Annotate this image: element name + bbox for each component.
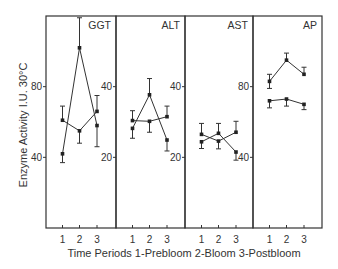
x-tick-label: 1 (267, 234, 273, 245)
data-point-marker (61, 152, 65, 156)
data-point-marker (268, 80, 272, 84)
panel-ap: AP4080123 (238, 16, 322, 245)
panel-label: AST (228, 19, 249, 31)
data-point-marker (78, 129, 82, 133)
x-tick-label: 1 (130, 234, 136, 245)
x-tick-label: 3 (301, 234, 307, 245)
data-point-marker (131, 127, 135, 131)
panel-ggt: GGT4080123 (31, 16, 116, 245)
y-tick-label: 80 (238, 81, 250, 92)
data-point-marker (165, 115, 169, 119)
x-tick-label: 2 (77, 234, 83, 245)
panel-ast: AST2040123 (170, 16, 253, 245)
series-series-b (130, 79, 170, 151)
panel-frame (253, 16, 322, 228)
data-point-marker (302, 73, 306, 77)
x-tick-label: 3 (233, 234, 239, 245)
data-point-marker (268, 99, 272, 103)
data-point-marker (61, 118, 65, 122)
x-tick-label: 2 (147, 234, 153, 245)
panel-label: GGT (88, 19, 111, 31)
chart-svg: Enzyme Activity I.U. 30°C Time Periods 1… (0, 0, 338, 269)
data-point-marker (95, 124, 99, 128)
x-tick-label: 1 (199, 234, 205, 245)
data-point-marker (78, 46, 82, 50)
x-tick-label: 2 (284, 234, 290, 245)
y-tick-label: 40 (101, 81, 113, 92)
data-point-marker (285, 97, 289, 101)
panels: GGT4080123ALT2040123AST2040123AP4080123 (31, 16, 322, 245)
series-series-a (130, 106, 170, 132)
y-tick-label: 40 (31, 152, 43, 163)
y-tick-label: 40 (238, 152, 250, 163)
y-tick-label: 20 (170, 152, 182, 163)
data-point-marker (285, 58, 289, 62)
data-point-marker (200, 140, 204, 144)
x-tick-label: 3 (164, 234, 170, 245)
data-point-marker (217, 132, 221, 136)
x-tick-label: 1 (60, 234, 66, 245)
x-tick-label: 3 (94, 234, 100, 245)
panel-label: ALT (162, 19, 181, 31)
series-line (133, 95, 168, 140)
data-point-marker (165, 138, 169, 142)
data-point-marker (234, 130, 238, 134)
series-series-b (267, 97, 307, 109)
panel-alt: ALT2040123 (101, 16, 185, 245)
data-point-marker (148, 119, 152, 123)
panel-frame (185, 16, 253, 228)
data-point-marker (200, 133, 204, 137)
y-tick-label: 20 (101, 152, 113, 163)
series-line (270, 60, 305, 81)
y-tick-label: 80 (31, 81, 43, 92)
chart: Enzyme Activity I.U. 30°C Time Periods 1… (0, 0, 338, 269)
data-point-marker (302, 103, 306, 107)
data-point-marker (95, 110, 99, 114)
data-point-marker (131, 119, 135, 123)
y-tick-label: 40 (170, 81, 182, 92)
data-point-marker (217, 139, 221, 143)
series-series-a (267, 53, 307, 88)
panel-label: AP (303, 19, 317, 31)
y-axis-label: Enzyme Activity I.U. 30°C (17, 63, 29, 188)
x-tick-label: 2 (216, 234, 222, 245)
data-point-marker (148, 93, 152, 97)
x-axis-label: Time Periods 1-Prebloom 2-Bloom 3-Postbl… (67, 247, 300, 259)
series-series-a (60, 96, 100, 144)
